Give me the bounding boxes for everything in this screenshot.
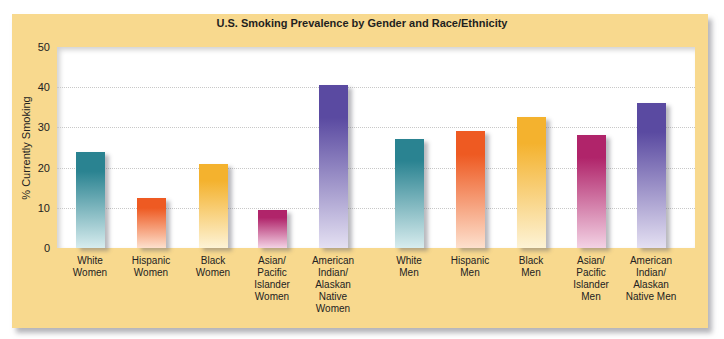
x-tick-label: AmericanIndian/AlaskanNativeWomen xyxy=(301,255,365,315)
x-tick-label: BlackMen xyxy=(499,255,563,279)
y-axis-label: % Currently Smoking xyxy=(20,96,32,199)
gridline xyxy=(57,127,695,128)
x-tick-label: WhiteWomen xyxy=(58,255,122,279)
bar xyxy=(319,85,348,248)
x-tick-label: Asian/PacificIslanderWomen xyxy=(240,255,304,303)
bar xyxy=(76,152,105,248)
chart-title: U.S. Smoking Prevalence by Gender and Ra… xyxy=(0,17,724,29)
y-tick-label: 10 xyxy=(20,202,50,214)
bar xyxy=(637,103,666,248)
x-tick-label: BlackWomen xyxy=(181,255,245,279)
x-tick-label: HispanicMen xyxy=(438,255,502,279)
x-tick-label: HispanicWomen xyxy=(119,255,183,279)
x-tick-label: AmericanIndian/AlaskanNative Men xyxy=(619,255,683,303)
bar xyxy=(137,198,166,248)
bar xyxy=(517,117,546,248)
y-tick-label: 30 xyxy=(20,121,50,133)
x-tick-label: Asian/PacificIslanderMen xyxy=(559,255,623,303)
plot-area xyxy=(57,47,695,248)
x-tick-label: WhiteMen xyxy=(377,255,441,279)
gridline xyxy=(57,87,695,88)
y-tick-label: 0 xyxy=(20,242,50,254)
bar xyxy=(456,131,485,248)
bar xyxy=(577,135,606,248)
bar xyxy=(258,210,287,248)
y-tick-label: 40 xyxy=(20,81,50,93)
y-tick-label: 20 xyxy=(20,162,50,174)
bar xyxy=(199,164,228,248)
bar xyxy=(395,139,424,248)
y-tick-label: 50 xyxy=(20,41,50,53)
